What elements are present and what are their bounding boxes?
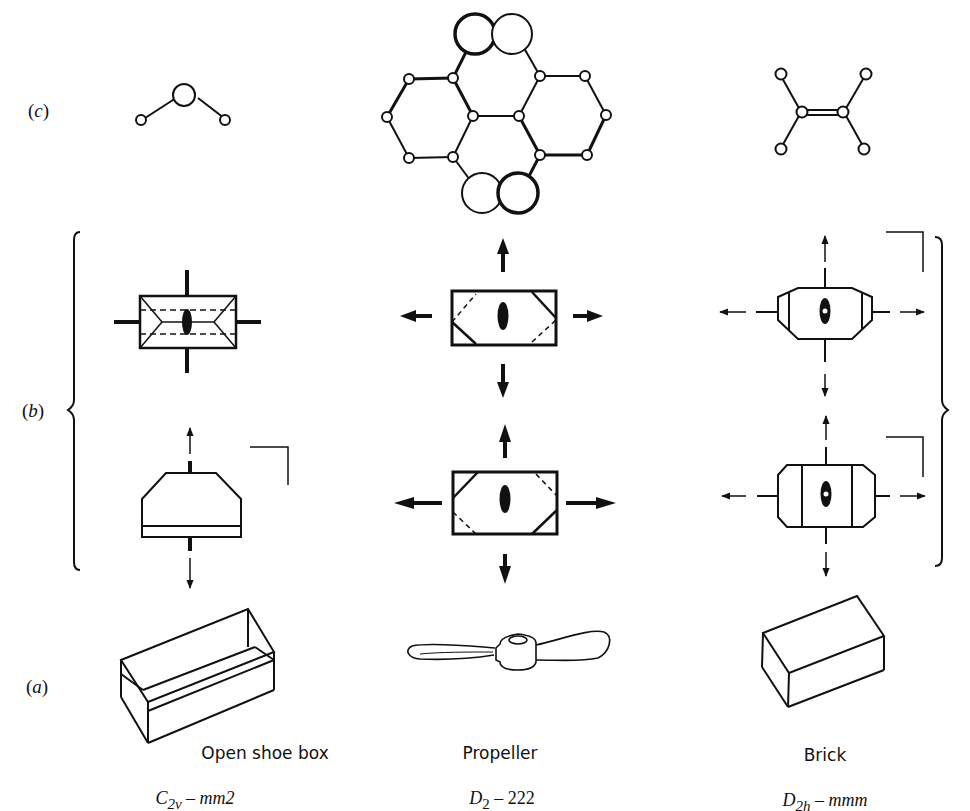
d2-side-view-icon (394, 424, 616, 584)
left-brace-icon (68, 232, 80, 570)
point-group-d2h: D2h – mmm (760, 790, 890, 811)
c2v-side-view-icon (142, 428, 288, 588)
d2h-side-view-icon (722, 416, 925, 576)
bent-molecule-icon (136, 84, 230, 125)
polycyclic-molecule-icon (382, 14, 611, 213)
symmetry-figure (0, 0, 970, 811)
brick-icon (762, 596, 884, 707)
d2h-top-view-icon (720, 232, 924, 396)
planar-molecule-icon (776, 69, 872, 155)
point-group-c2v: C2v – mm2 (140, 788, 250, 811)
propeller-icon (408, 631, 610, 670)
right-brace-icon (935, 237, 948, 566)
object-name-brick: Brick (780, 745, 870, 765)
point-group-d2: D2 – 222 (452, 788, 552, 811)
object-name-shoe-box: Open shoe box (200, 743, 330, 763)
object-name-propeller: Propeller (445, 743, 555, 763)
open-shoe-box-icon (121, 609, 274, 743)
c2v-top-view-icon (114, 270, 261, 373)
d2-top-view-icon (400, 238, 603, 398)
